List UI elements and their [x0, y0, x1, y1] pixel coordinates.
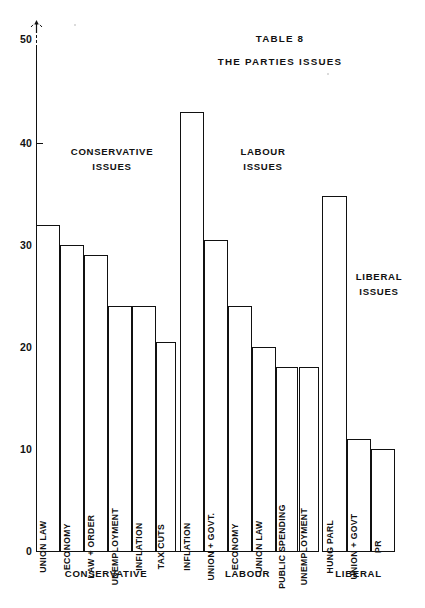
group-caption-labour: LABOUR	[176, 568, 319, 579]
scan-speck	[74, 24, 76, 26]
bar-labour-public-spending[interactable]: PUBLIC SPENDING	[276, 367, 298, 551]
y-axis-label-0: 0	[6, 546, 32, 557]
bar-conservative-law-order[interactable]: LAW + ORDER	[84, 255, 108, 551]
heading-line-2: ISSUES	[52, 160, 172, 175]
bar-conservative-tax-cuts[interactable]: TAX CUTS	[156, 342, 176, 551]
up-arrow-icon	[30, 20, 43, 34]
bar-liberal-pr[interactable]: PR	[371, 449, 395, 551]
bar-label: TAX CUTS	[157, 524, 166, 569]
heading-conservative-issues: CONSERVATIVE ISSUES	[52, 145, 172, 175]
bar-label: ECONOMY	[231, 524, 240, 571]
bar-label: UNION LAW	[39, 521, 48, 573]
scan-speck	[327, 73, 329, 75]
baseline-labour	[176, 551, 319, 552]
y-axis-label-50: 50	[6, 34, 32, 45]
group-caption-liberal: LIBERAL	[322, 568, 395, 579]
bar-liberal-hung-parl[interactable]: HUNG PARL	[322, 196, 347, 551]
bar-labour-unemployment[interactable]: UNEMPLOYMENT	[299, 367, 319, 551]
bar-labour-union-law[interactable]: UNION LAW	[252, 347, 276, 551]
heading-labour-issues: LABOUR ISSUES	[215, 145, 311, 175]
bar-conservative-economy[interactable]: ECONOMY	[60, 245, 84, 551]
bar-label: ECONOMY	[63, 524, 72, 571]
y-axis-label-10: 10	[6, 444, 32, 455]
bar-label: UNION LAW	[255, 521, 264, 573]
bar-label: HUNG PARL	[326, 520, 335, 574]
bar-labour-economy[interactable]: ECONOMY	[228, 306, 252, 551]
bar-conservative-inflation[interactable]: INFLATION	[132, 306, 156, 551]
heading-liberal-issues: LIBERAL ISSUES	[334, 270, 424, 300]
heading-line-1: LIBERAL	[334, 270, 424, 285]
y-axis-label-40: 40	[6, 138, 32, 149]
baseline-conservative	[36, 551, 176, 552]
bar-liberal-union-govt[interactable]: UNION + GOVT	[347, 439, 371, 551]
chart-canvas: TABLE 8 THE PARTIES ISSUES 0 10 20 30 40…	[0, 0, 425, 608]
table-label: TABLE 8	[200, 33, 360, 44]
bar-label: PR	[374, 541, 383, 554]
group-caption-conservative: CONSERVATIVE	[36, 568, 176, 579]
heading-line-2: ISSUES	[215, 160, 311, 175]
heading-line-2: ISSUES	[334, 285, 424, 300]
y-tick-40	[36, 143, 43, 144]
bar-label: INFLATION	[183, 523, 192, 571]
bar-conservative-unemployment[interactable]: UNEMPLOYMENT	[108, 306, 132, 551]
y-axis-label-30: 30	[6, 240, 32, 251]
bar-labour-union-govt[interactable]: UNION + GOVT.	[204, 240, 228, 551]
chart-subtitle: THE PARTIES ISSUES	[190, 56, 370, 67]
heading-line-1: CONSERVATIVE	[52, 145, 172, 160]
bar-labour-inflation[interactable]: INFLATION	[180, 112, 204, 551]
bar-label: INFLATION	[135, 523, 144, 571]
y-axis-label-20: 20	[6, 342, 32, 353]
bar-conservative-union-law[interactable]: UNION LAW	[36, 225, 60, 551]
heading-line-1: LABOUR	[215, 145, 311, 160]
